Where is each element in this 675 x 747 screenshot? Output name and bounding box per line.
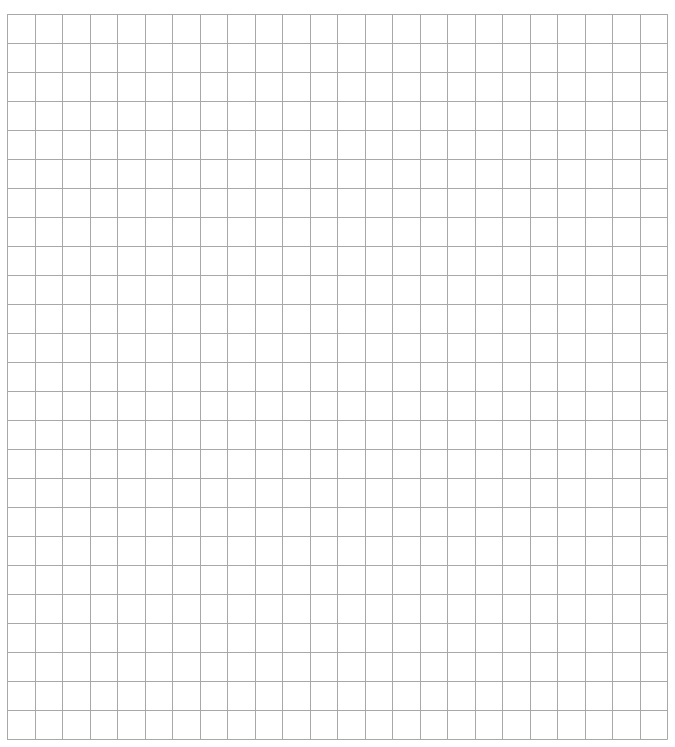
grid-lines (7, 14, 668, 740)
graph-paper-grid (7, 14, 667, 739)
